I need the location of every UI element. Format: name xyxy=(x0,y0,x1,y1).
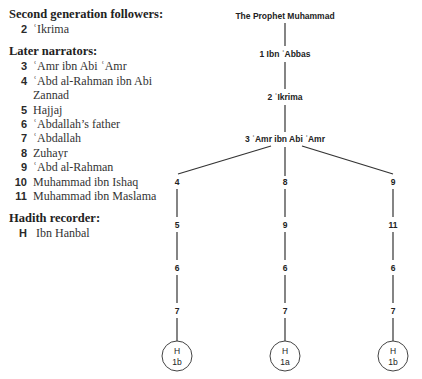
recorder-ref: 1a xyxy=(280,357,290,367)
narrator-node: 6 xyxy=(391,263,396,273)
narrator-node: 4 xyxy=(175,177,180,187)
recorder-ref: 1b xyxy=(172,357,182,367)
narrator-node: 7 xyxy=(391,306,396,316)
narrator-node: 6 xyxy=(175,263,180,273)
chain-node: 2 ʿIkrima xyxy=(268,92,303,102)
root-node: The Prophet Muhammad xyxy=(235,11,334,21)
narrator-node: 5 xyxy=(175,220,180,230)
narrator-node: 8 xyxy=(283,177,288,187)
connector-line xyxy=(178,146,271,174)
narrator-node: 9 xyxy=(391,177,396,187)
isnad-tree: The Prophet Muhammad 1 Ibn ʿAbbas 2 ʿIkr… xyxy=(0,0,422,379)
narrator-node: 11 xyxy=(389,220,398,230)
chain-node: 3 ʿAmr ibn Abi ʿAmr xyxy=(245,134,326,144)
narrator-node: 6 xyxy=(283,263,288,273)
recorder-code: H xyxy=(174,346,180,356)
connector-line xyxy=(302,146,393,174)
chain-node: 1 Ibn ʿAbbas xyxy=(259,49,310,59)
narrator-node: 7 xyxy=(283,306,288,316)
branch-middle: 8 9 6 7 H 1a xyxy=(270,177,300,371)
branch-left: 4 5 6 7 H 1b xyxy=(162,177,192,371)
recorder-ref: 1b xyxy=(388,357,398,367)
branch-right: 9 11 6 7 H 1b xyxy=(378,177,408,371)
narrator-node: 9 xyxy=(283,220,288,230)
recorder-code: H xyxy=(390,346,396,356)
narrator-node: 7 xyxy=(175,306,180,316)
recorder-code: H xyxy=(282,346,288,356)
